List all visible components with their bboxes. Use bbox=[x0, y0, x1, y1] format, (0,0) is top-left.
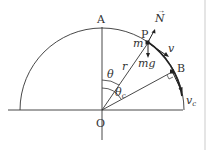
label-velocity: v bbox=[168, 42, 175, 55]
label-b: B bbox=[177, 62, 185, 75]
label-a: A bbox=[96, 13, 106, 26]
arrowhead-icon bbox=[152, 29, 156, 34]
label-theta-c: θc bbox=[115, 86, 126, 100]
label-theta: θ bbox=[107, 68, 114, 81]
label-weight: mg bbox=[138, 57, 155, 70]
label-radius: r bbox=[122, 60, 128, 73]
label-mass: m bbox=[133, 37, 143, 50]
hemisphere-diagram: A O P B m r θ θc N → mg v vc bbox=[0, 0, 211, 150]
vector-arrow-icon: → bbox=[157, 6, 165, 15]
label-velocity-c: vc bbox=[186, 94, 196, 108]
label-o: O bbox=[96, 117, 105, 130]
velocity-c-arrow bbox=[173, 73, 181, 90]
right-angle-marker bbox=[167, 75, 173, 79]
velocity-arrow bbox=[150, 44, 166, 55]
